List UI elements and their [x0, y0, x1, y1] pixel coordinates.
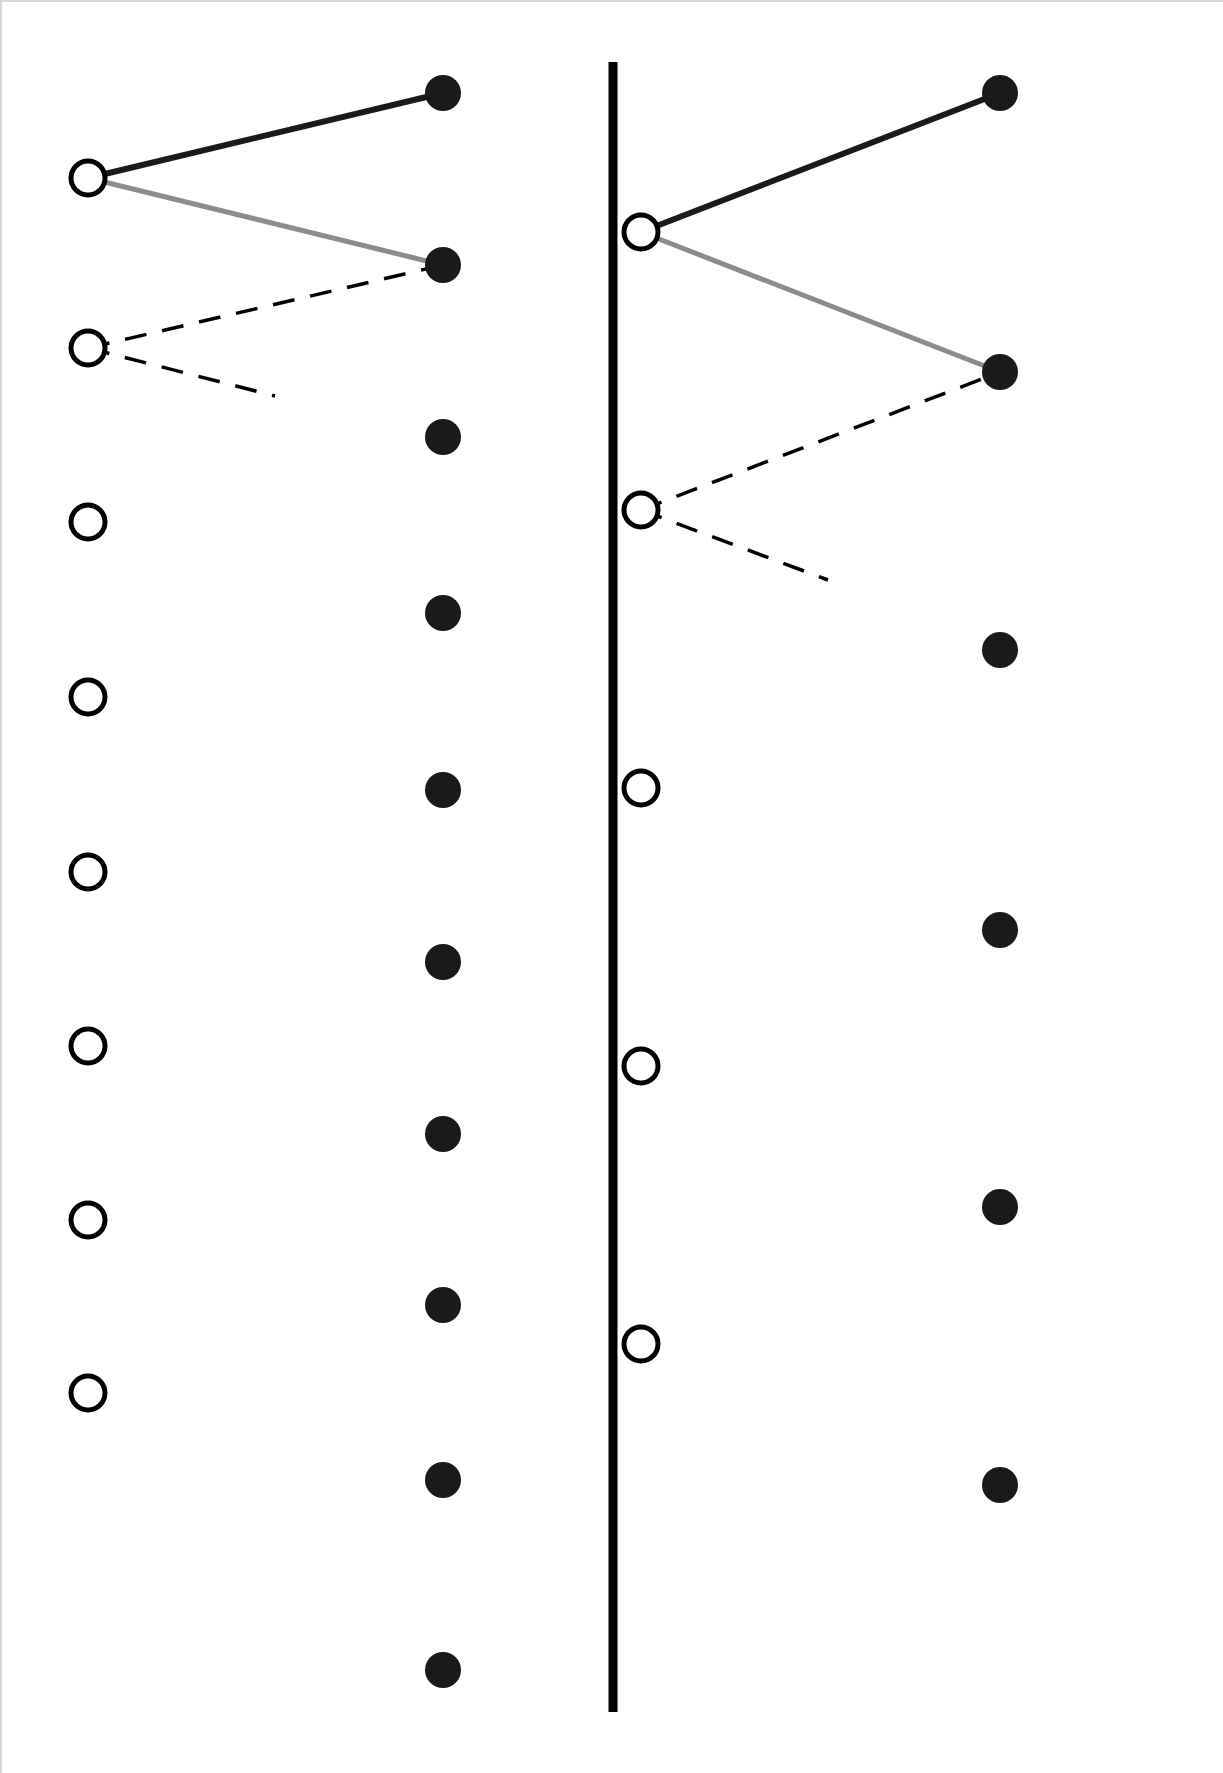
filled-circle-marker — [425, 595, 461, 631]
open-circle-marker — [71, 505, 105, 539]
filled-circle-marker — [425, 772, 461, 808]
filled-circle-marker — [982, 1467, 1018, 1503]
open-circle-marker — [624, 215, 658, 249]
filled-circle-marker — [425, 1287, 461, 1323]
open-circle-marker — [624, 493, 658, 527]
open-circle-marker — [71, 331, 105, 365]
open-circle-marker — [71, 1029, 105, 1063]
open-circle-marker — [71, 1203, 105, 1237]
filled-circle-marker — [425, 75, 461, 111]
filled-circle-marker — [425, 247, 461, 283]
filled-circle-marker — [982, 912, 1018, 948]
filled-circle-marker — [425, 1652, 461, 1688]
filled-circle-marker — [425, 419, 461, 455]
open-circle-marker — [71, 855, 105, 889]
open-circle-marker — [71, 161, 105, 195]
figure-canvas — [0, 0, 1223, 1773]
figure-svg — [0, 0, 1223, 1773]
open-circle-marker — [624, 1049, 658, 1083]
open-circle-marker — [71, 1376, 105, 1410]
open-circle-marker — [624, 1327, 658, 1361]
filled-circle-marker — [982, 632, 1018, 668]
filled-circle-marker — [425, 1116, 461, 1152]
filled-circle-marker — [982, 354, 1018, 390]
filled-circle-marker — [982, 1189, 1018, 1225]
open-circle-marker — [71, 680, 105, 714]
filled-circle-marker — [425, 1462, 461, 1498]
filled-circle-marker — [425, 944, 461, 980]
filled-circle-marker — [982, 75, 1018, 111]
open-circle-marker — [624, 771, 658, 805]
